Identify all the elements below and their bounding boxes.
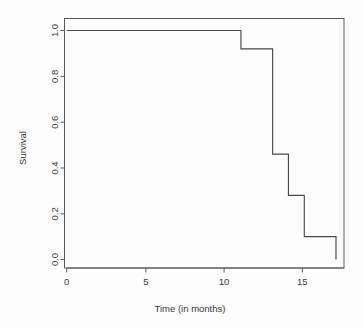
y-tick-label-0.6: 0.6 xyxy=(49,116,60,129)
x-tick-label-0: 0 xyxy=(64,276,69,287)
x-tick-label-5: 5 xyxy=(143,276,148,287)
y-tick-label-0.0: 0.0 xyxy=(49,253,60,266)
y-axis: 1.0 0.8 0.6 0.4 0.2 0.0 xyxy=(49,24,65,266)
y-tick-label-0.2: 0.2 xyxy=(49,207,60,220)
survival-step-curve xyxy=(67,31,336,260)
x-axis-title: Time (in months) xyxy=(155,303,226,314)
y-tick-label-0.4: 0.4 xyxy=(49,161,60,174)
plot-frame xyxy=(65,19,345,269)
survival-plot: 1.0 0.8 0.6 0.4 0.2 0.0 0 5 10 15 Time (… xyxy=(0,0,363,327)
y-tick-label-1.0: 1.0 xyxy=(49,24,60,37)
x-axis: 0 5 10 15 xyxy=(64,268,344,287)
chart-canvas: 1.0 0.8 0.6 0.4 0.2 0.0 0 5 10 15 Time (… xyxy=(0,0,363,327)
x-tick-label-10: 10 xyxy=(219,276,230,287)
x-tick-label-15: 15 xyxy=(297,276,308,287)
y-axis-title: Survival xyxy=(17,131,28,165)
y-tick-label-0.8: 0.8 xyxy=(49,70,60,83)
